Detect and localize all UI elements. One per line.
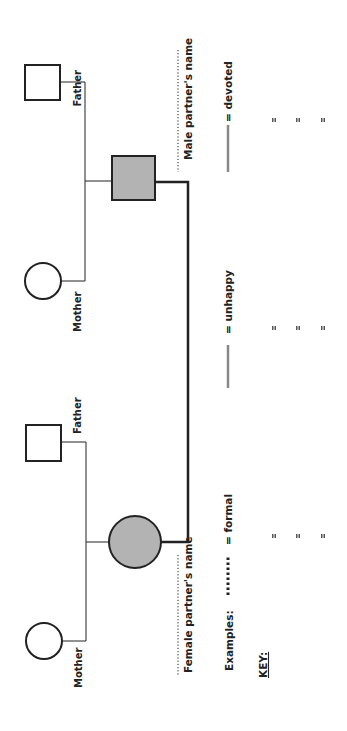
male-father-label: Father [72,70,83,107]
female-parent-connector [61,442,86,641]
genogram-diagram: Father Mother Male partner's name Father… [0,0,347,731]
female-partner-circle-icon [109,516,161,568]
female-partner-name-label: Female partner's name [182,536,194,673]
male-partner-square-icon [112,156,155,200]
male-father-square-icon [25,65,60,100]
legend-formal-label: = formal [222,494,234,545]
key-title: KEY: [257,652,269,678]
female-mother-label: Mother [73,647,84,688]
blank-entries-devoted [272,118,325,122]
legend-devoted-label: = devoted [222,61,234,122]
legend-unhappy-label: = unhappy [222,270,234,334]
female-father-square-icon [26,425,61,461]
female-mother-circle-icon [26,623,62,659]
relationship-line [155,182,188,542]
male-mother-label: Mother [72,291,83,332]
examples-label: Examples: [223,610,235,671]
male-mother-circle-icon [25,263,61,299]
blank-entries-unhappy [272,326,325,330]
male-partner-name-label: Male partner's name [182,38,194,160]
female-father-label: Father [72,397,83,434]
blank-entries-formal [272,534,325,538]
male-parent-connector [60,82,85,281]
